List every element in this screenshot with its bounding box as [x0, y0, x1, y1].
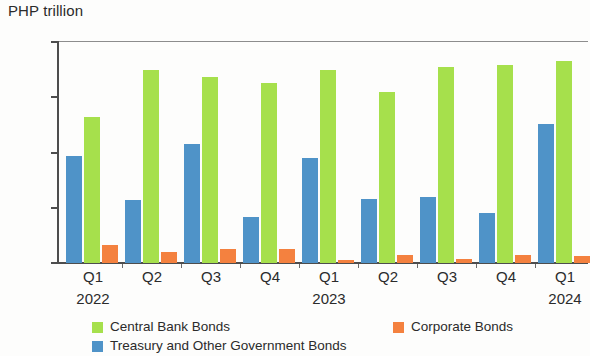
bar	[143, 70, 159, 263]
x-tick-label: Q4	[242, 268, 298, 285]
bar-group	[184, 42, 236, 263]
bar	[420, 197, 436, 263]
bar	[397, 255, 413, 263]
bar	[125, 200, 141, 263]
bar	[66, 156, 82, 263]
bar-group	[243, 42, 295, 263]
x-tick-mark	[181, 264, 182, 268]
bar-group	[125, 42, 177, 263]
bar	[279, 249, 295, 263]
x-tick-mark	[358, 264, 359, 268]
legend-label-treasury-bonds: Treasury and Other Government Bonds	[110, 339, 347, 353]
legend-item-treasury-bonds[interactable]: Treasury and Other Government Bonds	[92, 339, 347, 353]
x-tick-label: Q2	[124, 268, 180, 285]
x-tick-mark	[240, 264, 241, 268]
legend-row-1: Central Bank Bonds Corporate Bonds	[92, 320, 588, 339]
bar	[161, 252, 177, 263]
x-tick-label: Q2	[360, 268, 416, 285]
legend-label-central-bank-bonds: Central Bank Bonds	[110, 320, 230, 334]
bar	[497, 65, 513, 263]
x-tick-label: Q3	[419, 268, 475, 285]
bar-group	[302, 42, 354, 263]
bar-group	[538, 42, 590, 263]
bar	[538, 124, 554, 263]
legend-label-corporate-bonds: Corporate Bonds	[411, 320, 513, 334]
x-axis-year-label: 2022	[58, 290, 128, 307]
legend-swatch-orange-icon	[393, 322, 404, 333]
bar	[438, 67, 454, 263]
y-axis-title: PHP trillion	[8, 2, 83, 19]
bar-group	[361, 42, 413, 263]
bar	[515, 255, 531, 263]
bar-chart: PHP trillion 0.00.51.01.52.0 Q12022Q2Q3Q…	[0, 0, 590, 356]
bar	[479, 213, 495, 263]
bar	[302, 158, 318, 263]
plot-area	[57, 42, 588, 263]
bar	[202, 77, 218, 263]
bar	[184, 144, 200, 263]
bar	[361, 199, 377, 263]
bar	[338, 260, 354, 263]
bar-group	[420, 42, 472, 263]
x-tick-label: Q3	[183, 268, 239, 285]
chart-legend: Central Bank Bonds Corporate Bonds Treas…	[92, 320, 588, 356]
bar	[102, 245, 118, 263]
x-tick-mark	[299, 264, 300, 268]
bar	[261, 83, 277, 263]
legend-swatch-green-icon	[92, 322, 103, 333]
x-tick-label: Q1	[65, 268, 121, 285]
legend-item-central-bank-bonds[interactable]: Central Bank Bonds	[92, 320, 230, 334]
x-tick-mark	[535, 264, 536, 268]
x-tick-mark	[417, 264, 418, 268]
legend-row-2: Treasury and Other Government Bonds	[92, 339, 588, 356]
bar	[243, 217, 259, 263]
bar-group	[479, 42, 531, 263]
legend-swatch-blue-icon	[92, 341, 103, 352]
x-tick-mark	[122, 264, 123, 268]
bar	[84, 117, 100, 263]
x-tick-label: Q1	[301, 268, 357, 285]
bar-group	[66, 42, 118, 263]
x-axis-year-label: 2023	[294, 290, 364, 307]
bar	[556, 61, 572, 263]
bar	[320, 70, 336, 263]
bar	[220, 249, 236, 263]
x-tick-label: Q4	[478, 268, 534, 285]
legend-item-corporate-bonds[interactable]: Corporate Bonds	[393, 320, 588, 334]
x-tick-mark	[476, 264, 477, 268]
bar	[379, 92, 395, 263]
x-tick-label: Q1	[537, 268, 590, 285]
bar	[456, 259, 472, 263]
x-axis-year-label: 2024	[530, 290, 590, 307]
bar	[574, 256, 590, 263]
